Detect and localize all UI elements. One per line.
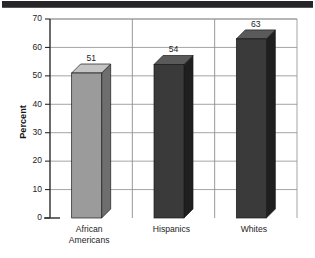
x-category-label-1-line-2: Americans — [69, 235, 110, 245]
bar-side-face-1 — [102, 64, 111, 218]
y-tick-label-70: 70 — [33, 13, 43, 23]
bar-chart: 010203040506070 515463 AfricanAmericansH… — [0, 0, 315, 258]
y-tick-label-20: 20 — [33, 155, 43, 165]
y-tick-label-40: 40 — [33, 99, 43, 109]
chart-canvas: 010203040506070 515463 AfricanAmericansH… — [0, 0, 315, 258]
x-category-label-3-line-1: Whites — [241, 224, 267, 234]
bar-front-face-2 — [154, 64, 184, 218]
y-tick-label-60: 60 — [33, 42, 43, 52]
bar-side-face-3 — [266, 30, 275, 218]
y-tick-label-0: 0 — [37, 212, 42, 222]
x-category-label-2-line-1: Hispanics — [153, 224, 190, 234]
y-axis-ticks: 010203040506070 — [33, 13, 50, 222]
bar-3 — [236, 30, 275, 218]
bar-value-label-3: 63 — [251, 19, 261, 29]
bar-side-face-2 — [184, 55, 193, 218]
y-axis-title: Percent — [18, 105, 28, 139]
bar-value-label-2: 54 — [169, 44, 179, 54]
bar-front-face-3 — [236, 39, 266, 218]
bar-front-face-1 — [72, 73, 102, 218]
y-tick-label-10: 10 — [33, 184, 43, 194]
figure-root: 010203040506070 515463 AfricanAmericansH… — [0, 0, 315, 258]
bar-2 — [154, 55, 193, 218]
x-axis-category-labels: AfricanAmericansHispanicsWhites — [69, 224, 267, 245]
x-category-label-1-line-1: African — [76, 224, 103, 234]
bar-1 — [72, 64, 111, 218]
y-tick-label-50: 50 — [33, 70, 43, 80]
bar-value-label-1: 51 — [86, 53, 96, 63]
y-tick-label-30: 30 — [33, 127, 43, 137]
